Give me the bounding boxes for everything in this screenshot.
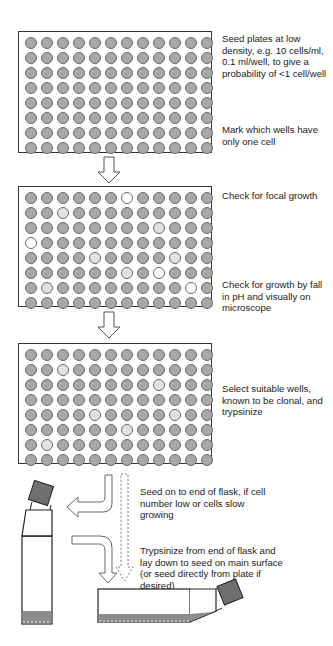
flask-cap: [217, 579, 243, 605]
dashed-arrow-down-icon: [116, 474, 133, 581]
culture-medium: [99, 614, 190, 621]
down-arrow-icon: [98, 312, 120, 338]
diagram-artwork: [0, 0, 333, 646]
flask-cap: [28, 480, 53, 505]
upright-flask-icon: [22, 480, 54, 624]
flat-flask-icon: [98, 579, 243, 622]
bent-arrow-down-icon: [72, 536, 117, 583]
bent-arrow-left-icon: [67, 475, 112, 517]
down-arrow-icon: [98, 157, 120, 183]
